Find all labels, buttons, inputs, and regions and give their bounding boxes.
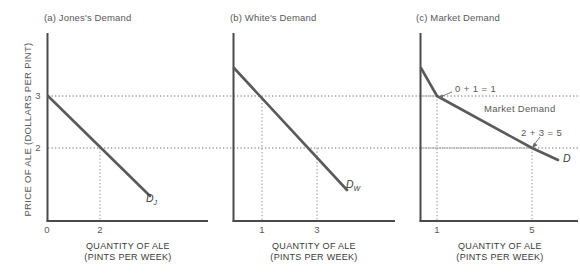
curve-label-market: D [563,152,571,164]
panel-market-demand-curve [421,68,558,160]
demand-curves-figure: PRICE OF ALE (DOLLARS PER PINT) (a) Jone… [0,0,580,276]
panel-jones-gridlines [48,96,580,221]
panel-white-demand-curve [234,68,347,190]
x-axis-title-line2: (PINTS PER WEEK) [84,252,171,262]
panel-white-gridlines [262,96,317,221]
x-axis-title-line2: (PINTS PER WEEK) [456,252,543,262]
panel-market-x-axis-title: QUANTITY OF ALE (PINTS PER WEEK) [420,241,580,263]
curve-label-jones: DJ [146,192,157,206]
annotation-sum-at-price-2: 2 + 3 = 5 [521,127,562,138]
curve-label-white-letter: D [346,178,354,190]
plot-canvas [0,0,580,276]
panel-jones-x-axis-title: QUANTITY OF ALE (PINTS PER WEEK) [47,241,209,263]
curve-label-jones-letter: D [146,192,154,204]
panel-market-x-tick-5: 5 [526,224,538,235]
curve-label-jones-subscript: J [154,199,158,206]
panel-market-x-tick-1: 1 [431,224,443,235]
panel-market-gridlines [421,96,532,221]
x-axis-title-line1: QUANTITY OF ALE [86,241,170,251]
panel-jones-x-tick-2: 2 [94,224,106,235]
curve-label-white: DW [346,178,360,192]
panel-market-annotation-arrows [438,92,541,148]
y-tick-2: 2 [32,142,44,153]
annotation-market-demand: Market Demand [484,103,555,114]
panel-jones-x-tick-0: 0 [41,224,53,235]
curve-label-white-subscript: W [354,185,361,192]
x-axis-title-line2: (PINTS PER WEEK) [270,252,357,262]
annotation-sum-at-price-3: 0 + 1 = 1 [455,83,496,94]
panel-white-axes [233,33,396,222]
panel-white-x-axis-title: QUANTITY OF ALE (PINTS PER WEEK) [233,241,395,263]
x-axis-title-line1: QUANTITY OF ALE [458,241,542,251]
panel-white-x-tick-1: 1 [256,224,268,235]
x-axis-title-line1: QUANTITY OF ALE [272,241,356,251]
panel-jones-axes [47,33,209,222]
y-tick-3: 3 [32,90,44,101]
panel-jones-demand-curve [48,96,150,196]
panel-white-x-tick-3: 3 [311,224,323,235]
